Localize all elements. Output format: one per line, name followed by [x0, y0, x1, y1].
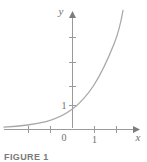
x-axis-label: x — [135, 131, 141, 143]
y-one-tick-label: 1 — [62, 100, 67, 111]
origin-label: 0 — [62, 132, 67, 143]
figure-container: y x 0 1 1 FIGURE 1 — [0, 0, 147, 162]
x-one-tick-label: 1 — [92, 134, 97, 145]
figure-caption: FIGURE 1 — [4, 152, 94, 162]
y-axis-arrowhead — [69, 11, 76, 18]
exponential-curve-chart: y x 0 1 1 — [0, 0, 147, 162]
y-axis-label: y — [58, 5, 64, 17]
